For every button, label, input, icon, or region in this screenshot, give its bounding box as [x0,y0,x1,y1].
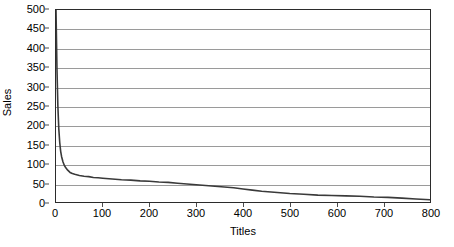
y-axis-tick-mark [45,125,49,126]
y-axis-tick-label: 200 [27,120,45,131]
y-axis-tick-label: 100 [27,159,45,170]
x-axis-tick-label: 700 [375,208,393,219]
plot-area [55,9,431,203]
x-axis-tick-label: 800 [422,208,440,219]
y-axis-tick-mark [45,144,49,145]
y-axis-title: Sales [0,0,16,205]
x-axis-tick-label: 200 [140,208,158,219]
y-axis-tick-mark [45,47,49,48]
y-axis-tick-mark [45,183,49,184]
y-axis-tick-label: 300 [27,81,45,92]
y-axis-title-label: Sales [3,89,14,117]
y-axis-tick-mark [45,106,49,107]
y-axis-tick-mark [45,28,49,29]
x-axis-tick-label: 100 [93,208,111,219]
x-axis-tick-label: 400 [234,208,252,219]
long-tail-sales-chart: Sales 050100150200250300350400450500 010… [0,0,454,247]
x-axis-title: Titles [55,226,431,237]
y-axis-tick-label: 400 [27,42,45,53]
x-axis-tick-labels: 0100200300400500600700800 [55,208,431,222]
y-axis-tick-label: 450 [27,23,45,34]
x-axis-tick-label: 600 [328,208,346,219]
y-axis-tick-label: 350 [27,62,45,73]
y-axis-tick-label: 250 [27,101,45,112]
y-axis-tick-mark [45,164,49,165]
y-axis-tick-label: 50 [33,178,45,189]
x-axis-tick-label: 300 [187,208,205,219]
y-axis-tick-label: 500 [27,4,45,15]
sales-curve [56,10,430,202]
y-axis-tick-mark [45,67,49,68]
x-axis-tick-label: 500 [281,208,299,219]
y-axis-tick-mark [45,203,49,204]
y-axis-tick-label: 150 [27,139,45,150]
y-axis-tick-mark [45,86,49,87]
y-axis-tick-labels: 050100150200250300350400450500 [16,9,49,203]
y-axis-tick-mark [45,9,49,10]
x-axis-tick-label: 0 [52,208,58,219]
sales-curve-path [56,10,430,200]
